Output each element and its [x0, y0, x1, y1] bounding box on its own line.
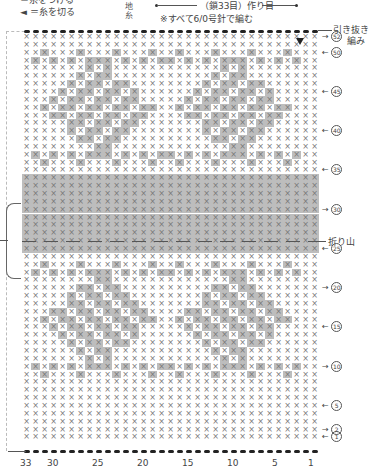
row-label-52: → 52	[322, 31, 342, 42]
column-number: 30	[47, 458, 58, 468]
stitch-cell: ×	[121, 433, 130, 441]
stitch-cell: ×	[184, 433, 193, 441]
chain-stitch	[249, 450, 255, 453]
column-number: 1	[308, 458, 314, 468]
chain-stitch	[60, 450, 66, 453]
stitch-cell: ×	[310, 433, 319, 441]
cast-on-line-left	[157, 5, 197, 6]
chain-stitch	[69, 450, 75, 453]
stitch-cell: ×	[202, 433, 211, 441]
brace-tick	[0, 240, 8, 241]
chain-stitch	[294, 450, 300, 453]
stitch-cell: ×	[238, 433, 247, 441]
chain-stitch	[186, 450, 192, 453]
stitch-cell: ×	[103, 433, 112, 441]
row-label-10: → 10	[322, 361, 342, 372]
stitch-cell: ×	[247, 433, 256, 441]
stitch-cell: ×	[274, 433, 283, 441]
chain-stitch	[240, 450, 246, 453]
stitch-cell: ×	[148, 433, 157, 441]
stitch-cell: ×	[157, 433, 166, 441]
row-arrow-icon: →	[322, 205, 329, 214]
stitch-cell: ×	[112, 433, 121, 441]
column-number: 33	[20, 458, 31, 468]
row-label-1: ← 1	[322, 431, 342, 442]
row-label-20: → 20	[322, 282, 342, 293]
stitch-cell: ×	[85, 433, 94, 441]
row-arrow-icon: ←	[322, 322, 329, 331]
column-number: 25	[92, 458, 103, 468]
chain-stitch	[195, 450, 201, 453]
cut-yarn-marker-icon	[296, 38, 304, 45]
fold-pointer	[318, 241, 326, 242]
chain-stitch	[42, 450, 48, 453]
row-arrow-icon: ←	[322, 48, 329, 57]
chain-stitch	[168, 450, 174, 453]
stitch-cell: ×	[130, 433, 139, 441]
row-label-5: ← 5	[322, 400, 342, 411]
chain-stitch	[132, 450, 138, 453]
stitch-cell: ×	[58, 433, 67, 441]
cast-on-line-right	[262, 5, 296, 6]
row-label-35: ← 35	[322, 164, 342, 175]
chain-stitch	[312, 450, 318, 453]
chain-stitch	[276, 450, 282, 453]
row-arrow-icon: →	[322, 283, 329, 292]
chain-stitch	[258, 450, 264, 453]
stitch-cell: ×	[139, 433, 148, 441]
chain-stitch	[105, 450, 111, 453]
chain-stitch	[123, 450, 129, 453]
stitch-cell: ×	[256, 433, 265, 441]
chain-stitch	[141, 450, 147, 453]
stitch-cell: ×	[301, 433, 310, 441]
chain-stitch	[177, 450, 183, 453]
row-arrow-icon: ←	[322, 87, 329, 96]
chain-stitch	[222, 450, 228, 453]
chain-stitch	[114, 450, 120, 453]
cut-yarn-icon: ◄	[20, 7, 27, 17]
stitch-cell: ×	[193, 433, 202, 441]
stitch-cell: ×	[292, 433, 301, 441]
column-number: 10	[227, 458, 238, 468]
stitch-cell: ×	[31, 433, 40, 441]
stitch-cell: ×	[22, 433, 31, 441]
stitch-cell: ×	[229, 433, 238, 441]
chain-stitch	[51, 450, 57, 453]
ground-label: 地 糸	[124, 2, 134, 20]
stitch-cell: ×	[40, 433, 49, 441]
stitch-cell: ×	[175, 433, 184, 441]
stitch-cell: ×	[211, 433, 220, 441]
chain-stitch	[87, 450, 93, 453]
row-arrow-icon: ←	[322, 126, 329, 135]
row-arrow-icon: ←	[322, 244, 329, 253]
stitch-cell: ×	[94, 433, 103, 441]
row-arrow-icon: →	[322, 362, 329, 371]
chain-stitch	[285, 450, 291, 453]
row-arrow-icon: ←	[322, 401, 329, 410]
chain-stitch	[150, 450, 156, 453]
chain-stitch	[267, 450, 273, 453]
chain-stitch	[231, 450, 237, 453]
row-label-40: ← 40	[322, 125, 342, 136]
column-number: 5	[272, 458, 278, 468]
row-arrow-icon: ←	[322, 165, 329, 174]
row-label-25: ← 25	[322, 243, 342, 254]
chain-stitch	[159, 450, 165, 453]
legend-cut: ◄ ＝糸を切る	[20, 7, 75, 18]
note: ※すべて6/0号針で編む	[160, 12, 253, 25]
row-label-45: ← 45	[322, 86, 342, 97]
legend-attach: ＝糸をつける	[20, 0, 74, 6]
stitch-cell: ×	[220, 433, 229, 441]
stitch-cell: ×	[76, 433, 85, 441]
row-label-15: ← 15	[322, 321, 342, 332]
stitch-cell: ×	[166, 433, 175, 441]
bottom-start-line	[8, 451, 26, 452]
row-arrow-icon: ←	[322, 432, 329, 441]
chain-stitch	[96, 450, 102, 453]
stitch-cell: ×	[283, 433, 292, 441]
row-label-30: → 30	[322, 204, 342, 215]
fold-line	[22, 241, 318, 242]
chain-stitch	[78, 450, 84, 453]
knit-label: 編み	[347, 34, 365, 47]
chain-stitch	[303, 450, 309, 453]
